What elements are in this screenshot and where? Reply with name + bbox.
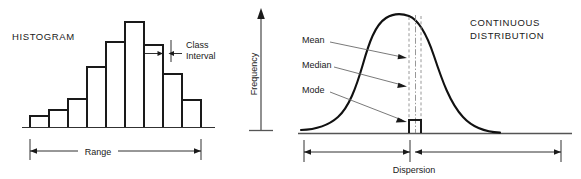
median-callout bbox=[334, 67, 407, 88]
histogram-panel: HISTOGRAM Class Interval bbox=[12, 22, 216, 160]
histogram-bar-2 bbox=[49, 110, 68, 127]
dispersion-dimension bbox=[304, 140, 561, 162]
median-label: Median bbox=[302, 60, 332, 70]
range-label: Range bbox=[85, 147, 112, 157]
frequency-axis: Frequency bbox=[249, 8, 273, 131]
mode-callout bbox=[330, 92, 407, 123]
class-interval-inner-arrow bbox=[145, 51, 163, 56]
histogram-bar-6 bbox=[125, 22, 144, 127]
class-interval-label-line2: Interval bbox=[186, 51, 216, 61]
histogram-bar-7 bbox=[144, 45, 163, 127]
class-interval-label-line1: Class bbox=[186, 40, 209, 50]
figure-canvas: HISTOGRAM Class Interval bbox=[0, 0, 581, 179]
histogram-bar-8 bbox=[163, 74, 182, 127]
mode-label: Mode bbox=[302, 85, 325, 95]
histogram-bar-9 bbox=[182, 100, 201, 127]
histogram-bar-5 bbox=[106, 42, 125, 127]
central-tendency-box bbox=[409, 120, 421, 133]
statistics-figure: HISTOGRAM Class Interval bbox=[0, 0, 581, 179]
histogram-bar-3 bbox=[68, 99, 87, 127]
mean-label: Mean bbox=[302, 35, 325, 45]
frequency-axis-label: Frequency bbox=[249, 52, 259, 95]
class-interval-extension bbox=[169, 40, 183, 62]
continuous-distribution-title-line2: DISTRIBUTION bbox=[470, 30, 544, 41]
histogram-title: HISTOGRAM bbox=[12, 31, 75, 42]
histogram-bar-4 bbox=[87, 67, 106, 127]
histogram-bar-1 bbox=[30, 116, 49, 127]
range-dimension bbox=[30, 139, 201, 160]
continuous-distribution-panel: Mean Median Mode CONTINUOUS DISTRIBUTION bbox=[298, 14, 572, 175]
continuous-distribution-title-line1: CONTINUOUS bbox=[470, 17, 540, 28]
dispersion-label: Dispersion bbox=[393, 165, 436, 175]
